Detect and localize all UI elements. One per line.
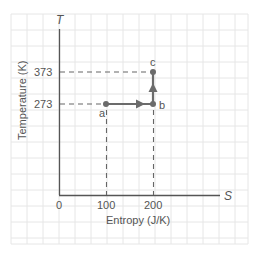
point-c-label: c — [150, 56, 156, 68]
y-axis-title: Temperature (K) — [16, 61, 28, 140]
chart: a b c 373 273 0 100 200 T S Entropy (J/K… — [0, 0, 257, 253]
x-tick-label-0: 0 — [56, 199, 62, 211]
x-tick-label-200: 200 — [144, 199, 162, 211]
x-axis-title: Entropy (J/K) — [106, 214, 170, 226]
y-tick-373: 373 — [34, 66, 52, 78]
point-b-label: b — [159, 99, 165, 111]
x-tick-label-100: 100 — [97, 199, 115, 211]
arrow-right-icon — [136, 100, 145, 109]
grid — [11, 14, 248, 244]
point-c — [150, 69, 156, 75]
point-a-label: a — [99, 107, 106, 119]
y-axis-symbol: T — [56, 13, 65, 27]
process-path — [106, 72, 153, 104]
x-axis-symbol: S — [224, 189, 232, 203]
point-b — [150, 101, 156, 107]
y-tick-273: 273 — [34, 98, 52, 110]
arrow-up-icon — [149, 83, 158, 92]
